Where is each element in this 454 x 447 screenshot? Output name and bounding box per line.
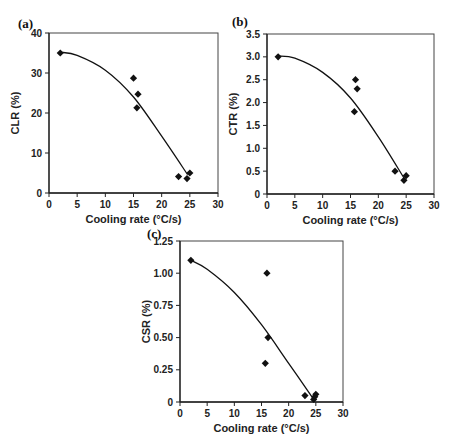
y-tick-label: 0.75 xyxy=(154,300,174,311)
chart-panel-a: 051015202530010203040Cooling rate (°C/s)… xyxy=(9,16,224,225)
y-tick-label: 1.5 xyxy=(246,120,260,131)
y-axis-label: CTR (%) xyxy=(227,92,239,135)
y-tick-label: 1.00 xyxy=(154,268,174,279)
x-tick-label: 0 xyxy=(46,199,52,210)
y-axis-label: CSR (%) xyxy=(140,299,152,343)
data-point xyxy=(301,392,308,399)
data-point xyxy=(275,53,282,60)
x-tick-label: 20 xyxy=(156,199,168,210)
x-tick-label: 25 xyxy=(401,200,413,211)
y-tick-label: 0.50 xyxy=(154,332,174,343)
chart-panel-c: 05101520253000.250.500.751.001.25Cooling… xyxy=(140,226,349,434)
x-tick-label: 15 xyxy=(256,408,268,419)
data-point xyxy=(264,334,271,341)
trendline xyxy=(191,260,314,399)
x-tick-label: 25 xyxy=(310,408,322,419)
x-axis-label: Cooling rate (°C/s) xyxy=(213,422,309,434)
y-tick-label: 20 xyxy=(31,108,43,119)
trendline xyxy=(278,56,404,178)
y-tick-label: 0.25 xyxy=(154,364,174,375)
data-point xyxy=(351,108,358,115)
trendline xyxy=(60,52,187,174)
x-tick-label: 5 xyxy=(74,199,80,210)
x-axis-label: Cooling rate (°C/s) xyxy=(85,213,181,225)
x-tick-label: 30 xyxy=(212,199,224,210)
y-tick-label: 30 xyxy=(31,68,43,79)
x-tick-label: 25 xyxy=(184,199,196,210)
plot-frame xyxy=(49,33,218,193)
data-point xyxy=(263,270,270,277)
x-tick-label: 5 xyxy=(292,200,298,211)
y-tick-label: 2.5 xyxy=(246,74,260,85)
y-tick-label: 0 xyxy=(36,188,42,199)
x-tick-label: 15 xyxy=(345,200,357,211)
y-tick-label: 2.0 xyxy=(246,97,260,108)
x-tick-label: 10 xyxy=(100,199,112,210)
y-tick-label: 0.5 xyxy=(246,166,260,177)
data-point xyxy=(187,257,194,264)
y-tick-label: 1.0 xyxy=(246,143,260,154)
x-tick-label: 20 xyxy=(283,408,295,419)
plot-frame xyxy=(180,241,343,402)
y-tick-label: 3.5 xyxy=(246,29,260,40)
x-tick-label: 10 xyxy=(229,408,241,419)
x-tick-label: 30 xyxy=(337,408,349,419)
data-point xyxy=(130,75,137,82)
x-tick-label: 10 xyxy=(317,200,329,211)
x-tick-label: 20 xyxy=(373,200,385,211)
x-tick-label: 5 xyxy=(204,408,210,419)
data-point xyxy=(352,76,359,83)
chart-panel-b: 05101520253000.51.01.52.02.53.03.5Coolin… xyxy=(227,14,440,226)
y-axis-label: CLR (%) xyxy=(9,91,21,134)
x-tick-label: 0 xyxy=(264,200,270,211)
x-tick-label: 15 xyxy=(128,199,140,210)
x-tick-label: 30 xyxy=(428,200,440,211)
data-point xyxy=(175,173,182,180)
y-tick-label: 10 xyxy=(31,148,43,159)
y-tick-label: 3.0 xyxy=(246,51,260,62)
panel-label: (b) xyxy=(232,14,248,29)
data-point xyxy=(354,85,361,92)
x-tick-label: 0 xyxy=(177,408,183,419)
figure-panels: 051015202530010203040Cooling rate (°C/s)… xyxy=(0,0,454,447)
x-axis-label: Cooling rate (°C/s) xyxy=(302,214,398,226)
data-point xyxy=(134,91,141,98)
y-tick-label: 0 xyxy=(254,189,260,200)
y-tick-label: 0 xyxy=(167,397,173,408)
panel-label: (c) xyxy=(147,226,161,241)
panel-label: (a) xyxy=(18,16,33,31)
data-point xyxy=(57,49,64,56)
data-point xyxy=(262,360,269,367)
